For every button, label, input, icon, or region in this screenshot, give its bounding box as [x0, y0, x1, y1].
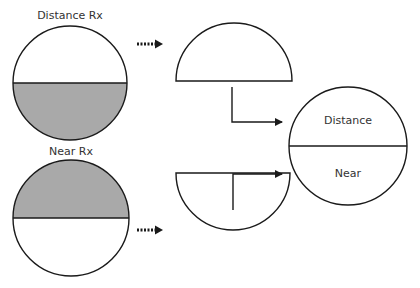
- distance-rx-lens: Distance Rx: [13, 9, 127, 140]
- combined-lens: Distance Near: [289, 87, 407, 205]
- top-half-segment: [176, 23, 292, 81]
- near-rx-lens: Near Rx: [13, 145, 129, 276]
- result-distance-label: Distance: [324, 114, 372, 127]
- lens-assembly-diagram: Distance Rx Near Rx Distance Near: [0, 0, 420, 288]
- elbow-arrow-icon: [232, 87, 282, 122]
- result-near-label: Near: [335, 167, 362, 180]
- shaded-distance-half: [13, 160, 129, 218]
- near-rx-label: Near Rx: [49, 145, 93, 158]
- distance-rx-label: Distance Rx: [37, 9, 103, 22]
- shaded-near-half: [13, 83, 127, 140]
- dashed-arrow-icon: [137, 40, 163, 49]
- dashed-arrow-icon: [137, 226, 163, 235]
